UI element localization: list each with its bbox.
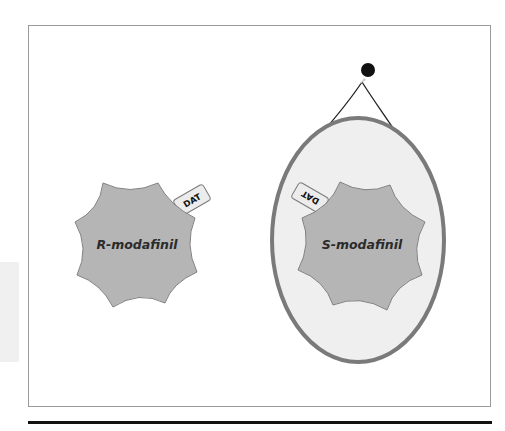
s-modafinil-label: S-modafinil (322, 237, 403, 252)
nail-icon (361, 63, 375, 77)
diagram-svg: DAT R-modafinil DAT S-modafinil (0, 0, 505, 431)
r-modafinil-label: R-modafinil (96, 237, 178, 252)
figure-canvas: DAT R-modafinil DAT S-modafinil (0, 0, 505, 431)
r-modafinil-molecule: DAT R-modafinil (75, 183, 211, 307)
